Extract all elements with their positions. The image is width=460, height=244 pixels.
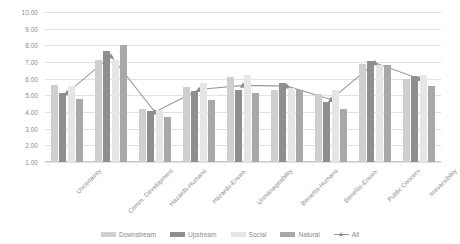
- bar-upstream: [191, 91, 198, 162]
- bar-group: [353, 12, 397, 162]
- legend-item[interactable]: Upstream: [170, 231, 217, 238]
- y-axis-tick-label: 3.00: [4, 125, 38, 132]
- bar-group: [89, 12, 133, 162]
- bar-natural: [296, 90, 303, 163]
- bar-natural: [76, 99, 83, 162]
- bar-upstream: [59, 93, 66, 162]
- x-axis-tick-label: Irreversibility: [428, 167, 458, 197]
- bar-social: [200, 83, 207, 162]
- legend-swatch-icon: [231, 232, 246, 237]
- bar-downstream: [271, 90, 278, 162]
- legend-swatch-icon: [280, 232, 295, 237]
- bar-group: [133, 12, 177, 162]
- bar-social: [288, 88, 295, 162]
- y-axis-tick-label: 7.00: [4, 59, 38, 66]
- bar-upstream: [323, 102, 330, 162]
- bar-downstream: [227, 77, 234, 162]
- bar-upstream: [279, 83, 286, 162]
- legend-item[interactable]: Natural: [280, 231, 319, 238]
- bar-downstream: [403, 79, 410, 162]
- legend-item[interactable]: Social: [231, 231, 267, 238]
- bar-natural: [164, 117, 171, 162]
- x-axis-tick-label: Benefits-Humans: [299, 167, 339, 207]
- y-axis-tick-label: 6.00: [4, 75, 38, 82]
- bar-upstream: [103, 51, 110, 162]
- legend-label: Natural: [298, 231, 319, 238]
- bar-upstream: [411, 76, 418, 162]
- legend-label: Upstream: [188, 231, 217, 238]
- y-axis-tick-label: 9.00: [4, 25, 38, 32]
- legend-swatch-icon: [334, 232, 349, 238]
- bar-downstream: [183, 87, 190, 162]
- bar-social: [420, 75, 427, 163]
- bar-natural: [208, 100, 215, 163]
- x-axis-tick-label: Unmanageability: [255, 167, 294, 206]
- bar-social: [376, 65, 383, 163]
- bar-group: [177, 12, 221, 162]
- y-axis-tick-label: 10.00: [4, 9, 38, 16]
- y-axis-tick-label: 5.00: [4, 92, 38, 99]
- bar-upstream: [367, 61, 374, 162]
- plot-area: [45, 12, 441, 162]
- x-axis-tick-label: Comm. Development: [127, 167, 174, 214]
- bar-downstream: [95, 60, 102, 163]
- legend-item[interactable]: Downstream: [101, 231, 156, 238]
- bar-natural: [384, 65, 391, 162]
- y-axis-tick-label: 2.00: [4, 142, 38, 149]
- x-axis-tick-label: Hazards-Humans: [168, 167, 208, 207]
- bar-downstream: [315, 94, 322, 162]
- bar-social: [244, 75, 251, 162]
- x-axis-tick-label: Public Concern: [386, 167, 422, 203]
- bar-upstream: [147, 111, 154, 162]
- bar-social: [112, 60, 119, 163]
- legend-swatch-icon: [101, 232, 116, 237]
- bar-upstream: [235, 90, 242, 163]
- bar-group: [397, 12, 441, 162]
- bar-group: [45, 12, 89, 162]
- y-axis-tick-label: 1.00: [4, 159, 38, 166]
- bar-downstream: [139, 109, 146, 162]
- bar-natural: [252, 93, 259, 162]
- legend-label: Social: [249, 231, 267, 238]
- x-axis-tick-label: Hazards-Enviro.: [210, 167, 247, 204]
- bar-social: [68, 86, 75, 162]
- x-axis-tick-label: Benefits-Enviro.: [342, 167, 379, 204]
- bar-social: [156, 110, 163, 163]
- legend-label: All: [352, 231, 359, 238]
- y-axis-tick-label: 4.00: [4, 109, 38, 116]
- bar-downstream: [51, 85, 58, 162]
- grid-line: [45, 162, 441, 163]
- bar-group: [265, 12, 309, 162]
- bar-line-chart: 10.009.008.007.006.005.004.003.002.001.0…: [0, 0, 460, 244]
- bar-group: [221, 12, 265, 162]
- bar-social: [332, 90, 339, 163]
- legend-label: Downstream: [119, 231, 156, 238]
- legend-item[interactable]: All: [334, 231, 359, 238]
- bar-natural: [340, 109, 347, 162]
- bar-group: [309, 12, 353, 162]
- legend-swatch-icon: [170, 232, 185, 237]
- bar-natural: [428, 86, 435, 162]
- y-axis-tick-label: 8.00: [4, 42, 38, 49]
- chart-legend: DownstreamUpstreamSocialNaturalAll: [0, 231, 460, 238]
- bar-natural: [120, 45, 127, 163]
- bar-downstream: [359, 64, 366, 162]
- x-axis-tick-label: Uncertainty: [74, 167, 102, 195]
